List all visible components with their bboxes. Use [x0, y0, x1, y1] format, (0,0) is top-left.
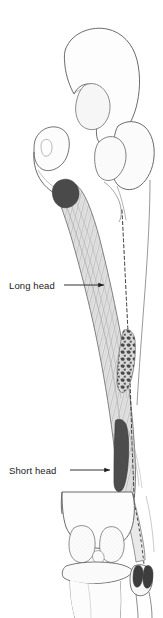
tibia-body-fill	[70, 580, 121, 618]
label-long-head: Long head	[9, 280, 55, 291]
medial-femoral-condyle	[69, 526, 95, 563]
sacral-foramen	[41, 139, 52, 156]
label-short-head: Short head	[9, 465, 56, 476]
patella-outline	[93, 551, 105, 564]
anatomy-figure	[0, 0, 163, 618]
long-head-origin-marker	[52, 179, 79, 208]
acetabulum	[76, 84, 110, 130]
